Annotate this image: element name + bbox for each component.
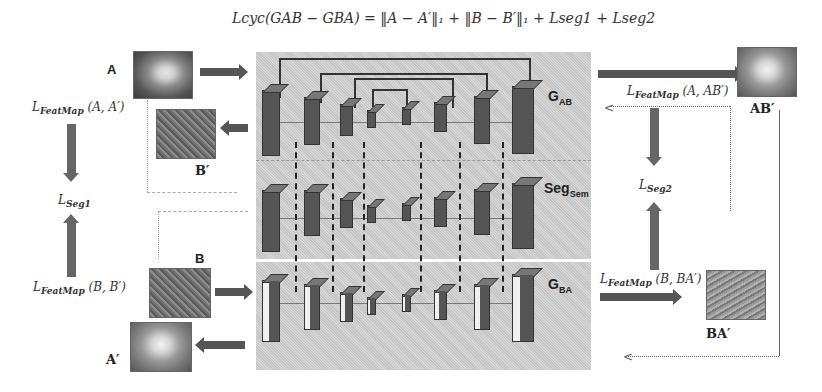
loss-seg1: LSeg1	[58, 193, 91, 209]
dashed-line-B-to-seg	[158, 211, 248, 212]
dotted-vertical-line	[730, 106, 731, 211]
gab-decoder-block-2	[474, 96, 490, 144]
seg-decoder-block-1	[434, 197, 447, 227]
shared-feature-arrow-6	[502, 142, 504, 292]
gab-encoder-block-3	[340, 104, 353, 136]
gba-decoder-block-2	[474, 284, 490, 330]
seg-decoder-block-3	[512, 183, 534, 249]
arrow-GAB-to-Bprime	[228, 124, 248, 132]
image-B-prime	[156, 109, 216, 159]
label-BA-prime: BA′	[706, 326, 731, 341]
image-A-prime	[130, 322, 192, 372]
gab-encoder-block-1	[262, 90, 280, 156]
shared-feature-arrow-3	[363, 142, 365, 292]
dotted-return-line-top	[610, 106, 730, 107]
arrow-featmap-B-to-seg1	[67, 222, 76, 277]
return-line-right-vertical	[779, 110, 780, 356]
loss-seg2: LSeg2	[639, 178, 672, 194]
gba-bottleneck-block-2	[402, 294, 411, 312]
arrow-GBA-to-BAprime	[600, 293, 674, 301]
dotted-line-B-route	[158, 211, 159, 259]
arrow-B-to-GBA	[215, 288, 245, 296]
arrow-A-to-GAB	[200, 68, 240, 76]
arrow-to-seg2-up	[650, 210, 659, 270]
image-BA-prime	[706, 270, 766, 320]
gab-decoder-block-1	[434, 102, 447, 132]
label-A-prime: A′	[106, 352, 120, 367]
arrow-GAB-to-ABprime	[598, 70, 736, 78]
seg-encoder-block-3	[340, 198, 353, 228]
seg-decoder-block-2	[474, 189, 490, 235]
arrow-to-seg2-down	[650, 108, 659, 158]
seg-bottleneck-block-1	[367, 205, 376, 223]
panel-separator-dashed	[256, 160, 591, 161]
label-A: A	[107, 62, 116, 77]
dotted-line-A-route	[147, 100, 148, 192]
label-B-prime: B′	[195, 163, 209, 178]
arrow-GBA-to-Aprime	[203, 341, 245, 349]
label-Seg-Sem: SegSem	[544, 180, 589, 199]
label-G-AB: GAB	[548, 88, 572, 107]
image-B	[149, 268, 211, 318]
gab-bottleneck-block-1	[367, 110, 376, 128]
gba-encoder-block-2	[304, 284, 320, 330]
loss-featmap-A-Aprime: LFeatMap (A, A′)	[32, 100, 125, 116]
gab-encoder-block-2	[304, 97, 320, 145]
seg-encoder-block-1	[262, 190, 280, 252]
shared-feature-arrow-5	[459, 142, 461, 292]
gba-decoder-block-1	[434, 290, 447, 320]
seg-bottleneck-block-2	[402, 203, 411, 221]
label-G-BA: GBA	[548, 276, 572, 295]
loss-featmap-B-Bprime: LFeatMap (B, B′)	[33, 280, 126, 296]
gba-decoder-block-3	[512, 274, 534, 342]
gab-decoder-block-3	[512, 86, 534, 154]
label-AB-prime: AB′	[750, 101, 775, 116]
gab-bottleneck-block-2	[402, 107, 411, 125]
cycle-loss-formula: 𝐿cyc(GAB − GBA) = ‖A − A′‖₁ + ‖B − B′‖₁ …	[232, 10, 652, 26]
shared-feature-arrow-1	[295, 142, 297, 292]
gba-encoder-block-1	[262, 280, 280, 342]
loss-featmap-B-BAprime: LFeatMap (B, BA′)	[600, 272, 702, 288]
image-AB-prime	[737, 47, 797, 97]
gba-encoder-block-3	[340, 292, 353, 322]
arrowhead-left-top: <	[604, 101, 614, 115]
arrowhead-left-bottom: <	[623, 350, 633, 364]
dashed-line-to-seg	[147, 192, 237, 193]
loss-featmap-A-ABprime: LFeatMap (A, AB′)	[627, 84, 728, 100]
shared-feature-arrow-2	[332, 142, 334, 292]
label-B: B	[195, 251, 204, 266]
arrow-featmap-to-seg1	[67, 124, 76, 174]
return-line-bottom	[628, 356, 779, 357]
seg-encoder-block-2	[304, 190, 320, 236]
shared-feature-arrow-4	[420, 142, 422, 292]
image-A	[133, 51, 193, 99]
panel-separator-white	[256, 259, 591, 262]
gba-bottleneck-block-1	[367, 297, 376, 315]
